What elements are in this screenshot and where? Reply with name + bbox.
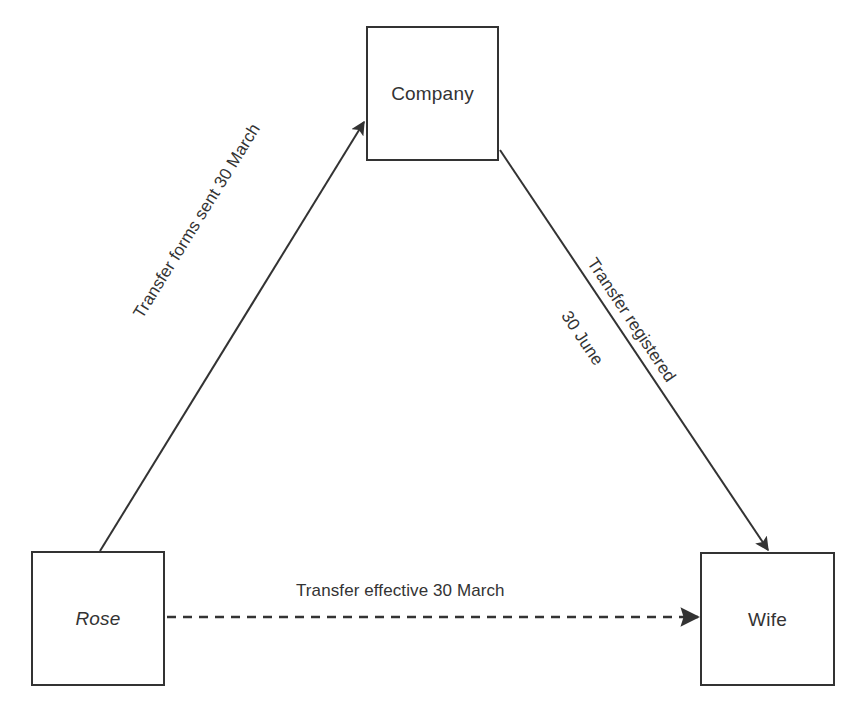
- node-company[interactable]: Company: [366, 26, 499, 161]
- edge-rose-to-company: [100, 122, 364, 551]
- diagram-canvas: Company Rose Wife Transfer forms sent 30…: [0, 0, 859, 712]
- node-wife[interactable]: Wife: [700, 552, 835, 686]
- edge-label-transfer-effective: Transfer effective 30 March: [296, 582, 505, 600]
- node-wife-label: Wife: [748, 610, 787, 629]
- node-company-label: Company: [391, 84, 474, 103]
- node-rose[interactable]: Rose: [31, 551, 165, 686]
- node-rose-label: Rose: [75, 609, 120, 628]
- edge-company-to-wife: [500, 150, 768, 550]
